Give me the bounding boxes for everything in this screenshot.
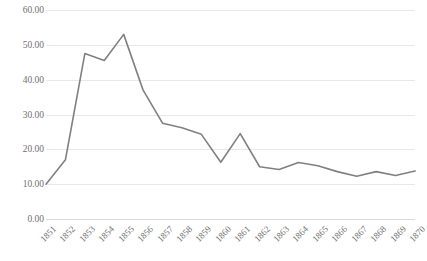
- y-tick-label: 10.00: [0, 179, 44, 189]
- y-tick-label: 50.00: [0, 40, 44, 50]
- y-tick-label: 0.00: [0, 214, 44, 224]
- y-tick-label: 40.00: [0, 75, 44, 85]
- y-tick-label: 60.00: [0, 5, 44, 15]
- plot-area: [46, 10, 415, 219]
- y-tick-label: 30.00: [0, 110, 44, 120]
- series-line-series-1: [46, 34, 415, 184]
- y-tick-label: 20.00: [0, 144, 44, 154]
- gridline-0-00: [46, 219, 415, 220]
- data-series-line: [46, 10, 415, 219]
